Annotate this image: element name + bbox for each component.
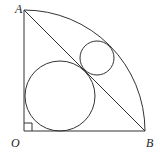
right-angle-marker [24,123,32,131]
label-O: O [11,136,20,150]
diagram-canvas: A O B [0,0,160,157]
large-inscribed-circle [25,61,95,131]
label-A: A [14,2,23,16]
small-inscribed-circle [80,41,114,75]
geometry-figure: A O B [0,0,160,157]
label-B: B [146,136,154,150]
